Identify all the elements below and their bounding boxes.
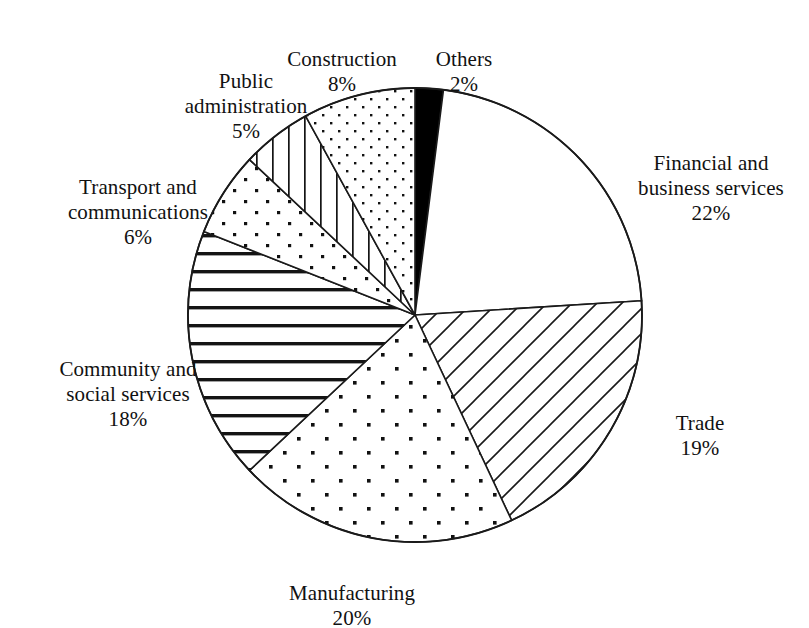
slice-label-community-name: Community and social services [59,357,196,406]
slice-label-community-pct: 18% [20,407,236,432]
slice-label-financial-and-business-services: Financial and business services 22% [620,126,802,251]
pie-slice-financial-and-business-services [415,90,642,315]
slice-label-community-and-social-services: Community and social services 18% [20,332,236,457]
slice-label-others-name: Others [436,47,493,71]
slice-label-others: Others 2% [404,22,524,122]
slice-label-financial-name: Financial and business services [638,151,784,200]
slice-label-public-administration-name: Public administration [185,69,308,118]
slice-label-trade: Trade 19% [640,386,760,486]
slice-label-transport-name: Transport and communications [68,175,208,224]
slice-label-manufacturing-name: Manufacturing [289,581,415,605]
slice-label-transport-pct: 6% [30,225,246,250]
slice-label-transport-and-communications: Transport and communications 6% [30,150,246,275]
slice-label-public-administration-pct: 5% [168,119,324,144]
slice-label-others-pct: 2% [404,72,524,97]
pie-chart-figure: Construction 8% Others 2% Public adminis… [0,0,809,628]
slice-label-manufacturing-pct: 20% [246,606,458,628]
slice-label-manufacturing: Manufacturing 20% [246,556,458,628]
slice-label-trade-pct: 19% [640,436,760,461]
slice-label-trade-name: Trade [676,411,725,435]
slice-label-financial-pct: 22% [620,201,802,226]
